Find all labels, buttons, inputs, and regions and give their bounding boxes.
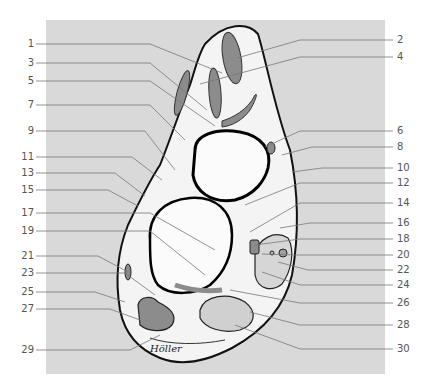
- structure-label-2: 2: [397, 35, 417, 45]
- structure-label-19: 19: [18, 226, 34, 236]
- leader-line-11: [36, 157, 162, 180]
- structure-label-28: 28: [397, 320, 417, 330]
- structure-label-6: 6: [397, 126, 417, 136]
- structure-label-21: 21: [18, 251, 34, 261]
- leader-line-8: [282, 147, 393, 155]
- structure-label-30: 30: [397, 344, 417, 354]
- structure-label-1: 1: [18, 39, 34, 49]
- structure-label-27: 27: [18, 304, 34, 314]
- structure-label-26: 26: [397, 298, 417, 308]
- structure-label-10: 10: [397, 163, 417, 173]
- structure-label-15: 15: [18, 185, 34, 195]
- artist-signature: Höller: [149, 343, 183, 354]
- structure-label-20: 20: [397, 250, 417, 260]
- structure-label-7: 7: [18, 100, 34, 110]
- leader-line-25: [36, 292, 125, 302]
- structure-label-17: 17: [18, 208, 34, 218]
- structure-label-3: 3: [18, 58, 34, 68]
- leader-line-15: [36, 190, 138, 206]
- structure-label-16: 16: [397, 218, 417, 228]
- structure-label-22: 22: [397, 265, 417, 275]
- vessel-pair: [250, 240, 259, 254]
- structure-label-23: 23: [18, 268, 34, 278]
- lateral-vessel: [267, 142, 275, 154]
- structure-label-5: 5: [18, 76, 34, 86]
- structure-label-4: 4: [397, 52, 417, 62]
- cross-section-illustration: Höller: [0, 0, 430, 392]
- leader-line-7: [36, 105, 185, 140]
- structure-label-12: 12: [397, 178, 417, 188]
- structure-label-25: 25: [18, 287, 34, 297]
- structure-label-29: 29: [18, 345, 34, 355]
- structure-label-18: 18: [397, 234, 417, 244]
- structure-label-9: 9: [18, 126, 34, 136]
- vessel-round: [279, 249, 287, 257]
- leader-line-10: [292, 168, 393, 172]
- structure-label-11: 11: [18, 152, 34, 162]
- leader-line-22: [278, 262, 393, 270]
- leader-line-13: [36, 173, 145, 196]
- leader-line-20: [262, 254, 393, 255]
- structure-label-24: 24: [397, 280, 417, 290]
- structure-label-14: 14: [397, 198, 417, 208]
- structure-label-13: 13: [18, 168, 34, 178]
- leader-line-9: [36, 131, 175, 170]
- structure-label-8: 8: [397, 142, 417, 152]
- leader-line-21: [36, 256, 128, 272]
